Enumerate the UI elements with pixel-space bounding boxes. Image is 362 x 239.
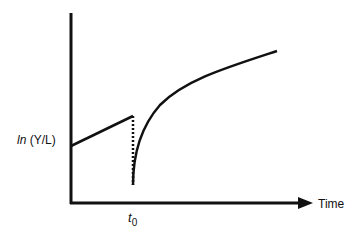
y-axis-label: ln (Y/L) bbox=[17, 133, 56, 147]
chart: ln (Y/L) Time t0 bbox=[0, 0, 362, 239]
x-axis-arrowhead bbox=[298, 197, 313, 209]
t0-label: t0 bbox=[128, 210, 138, 228]
x-axis-label: Time bbox=[318, 197, 345, 211]
recovery-curve bbox=[133, 51, 277, 185]
pre-shock-line bbox=[71, 116, 133, 146]
